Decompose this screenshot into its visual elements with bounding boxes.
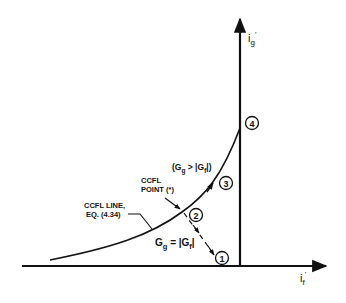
ccfl-curve bbox=[50, 128, 240, 260]
ccfl-line-label: CCFL LINE, bbox=[84, 201, 125, 210]
svg-text:4: 4 bbox=[249, 119, 254, 129]
svg-text:2: 2 bbox=[193, 211, 198, 221]
condition-greater-label: (Gg > |Gf|) bbox=[172, 162, 212, 175]
point-3: 3 bbox=[220, 177, 233, 190]
ccfl-point-label-2: POINT (*) bbox=[141, 185, 174, 194]
dashed-arrow-end-icon bbox=[208, 246, 214, 255]
diagram-svg: 4 3 2 1 ig' if' (Gg > |Gf|) CCFL POINT (… bbox=[0, 0, 346, 303]
svg-text:1: 1 bbox=[219, 254, 224, 264]
svg-text:3: 3 bbox=[223, 179, 228, 189]
ccfl-point-label: CCFL bbox=[141, 176, 161, 185]
ccfl-point-pointer bbox=[165, 198, 180, 209]
condition-equal-label: Gg = |Gf| bbox=[155, 237, 195, 251]
dashed-arrow-mid-icon bbox=[193, 225, 199, 233]
diagram-canvas: 4 3 2 1 ig' if' (Gg > |Gf|) CCFL POINT (… bbox=[0, 0, 346, 303]
point-1: 1 bbox=[216, 252, 229, 265]
point-4: 4 bbox=[246, 117, 259, 130]
horizontal-axis-label: if' bbox=[300, 270, 307, 287]
point-2: 2 bbox=[190, 209, 203, 222]
vertical-axis-label: ig' bbox=[248, 30, 257, 47]
ccfl-line-label-2: EQ. (4.34) bbox=[86, 210, 121, 219]
ccfl-line-leader bbox=[128, 214, 152, 229]
